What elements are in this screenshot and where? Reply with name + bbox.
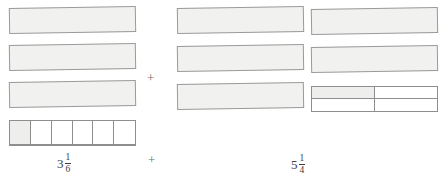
left-whole-number: 3 [57, 157, 65, 170]
fourths-cell-3 [312, 99, 375, 111]
left-fraction-denominator: 6 [65, 163, 72, 174]
plus-sign-upper: + [147, 71, 154, 84]
right-whole-number: 5 [291, 158, 299, 171]
fourths-grid [312, 87, 437, 111]
sixths-cell-6 [114, 121, 135, 145]
sixths-cell-5 [93, 121, 114, 145]
left-fraction-numerator: 1 [65, 153, 72, 163]
sixths-cell-2 [31, 121, 52, 145]
sixths-cell-1-shaded [10, 121, 31, 145]
right-whole-bar-5 [177, 82, 304, 110]
sixths-grid [10, 121, 135, 145]
right-mixed-number-label: 5 1 4 [291, 154, 305, 176]
fourths-cell-4 [375, 99, 438, 111]
right-whole-bar-3 [177, 44, 304, 72]
right-fraction-denominator: 4 [299, 164, 306, 175]
right-whole-bar-1 [177, 6, 304, 34]
left-partitioned-bar-sixths [9, 120, 136, 146]
right-whole-bar-2 [311, 7, 438, 35]
left-mixed-number-label: 3 1 6 [57, 153, 71, 175]
fourths-cell-1-shaded [312, 87, 375, 99]
left-whole-bar-1 [9, 6, 136, 34]
right-partitioned-bar-fourths [311, 86, 438, 112]
right-whole-bar-4 [311, 45, 438, 73]
right-fraction-numerator: 1 [299, 154, 306, 164]
left-whole-bar-3 [9, 80, 136, 108]
fraction-diagram-canvas: 3 1 6 + + 5 1 4 [0, 0, 441, 179]
fourths-cell-2 [375, 87, 438, 99]
sixths-cell-4 [73, 121, 94, 145]
left-whole-bar-2 [9, 43, 136, 71]
sixths-cell-3 [52, 121, 73, 145]
left-fraction: 1 6 [65, 153, 72, 175]
plus-sign-lower: + [148, 153, 155, 166]
right-fraction: 1 4 [299, 154, 306, 176]
